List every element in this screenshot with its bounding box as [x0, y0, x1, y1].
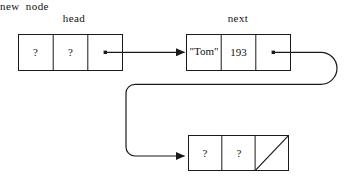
diagram-canvas: head next new node [0, 0, 352, 188]
cell-value-head-0: ? [18, 47, 53, 58]
cell-value-new-node-0: ? [188, 148, 222, 159]
cell-value-new-node-1: ? [222, 148, 256, 159]
cell-value-head-1: ? [53, 47, 88, 58]
diagram-vector-layer [0, 0, 352, 188]
cell-value-next-1: 193 [221, 47, 256, 58]
cell-value-next-0: "Tom" [186, 46, 222, 57]
